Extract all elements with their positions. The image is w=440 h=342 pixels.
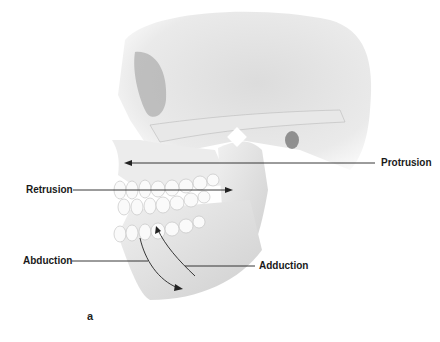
retrusion-label: Retrusion: [26, 185, 73, 195]
abduction-label: Abduction: [23, 256, 72, 266]
adduction-label: Adduction: [259, 261, 308, 271]
panel-label: a: [87, 310, 93, 322]
mandible-body: [118, 200, 262, 300]
protrusion-label: Protrusion: [381, 158, 432, 168]
skull-illustration: [0, 0, 440, 342]
jaw-movement-diagram: Protrusion Retrusion Abduction Adduction…: [0, 0, 440, 342]
